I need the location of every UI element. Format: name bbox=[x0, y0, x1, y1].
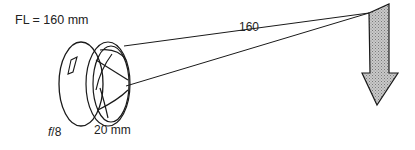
f-number-value: /8 bbox=[51, 125, 61, 139]
aperture-diameter-label: 20 mm bbox=[94, 123, 131, 137]
object-arrow-icon bbox=[362, 4, 398, 105]
lens-icon bbox=[59, 42, 103, 126]
distance-label: 160 bbox=[239, 20, 259, 34]
focal-length-label: FL = 160 mm bbox=[15, 13, 89, 27]
aperture-diaphragm-icon bbox=[86, 42, 130, 126]
f-number-label: f/8 bbox=[48, 125, 61, 139]
